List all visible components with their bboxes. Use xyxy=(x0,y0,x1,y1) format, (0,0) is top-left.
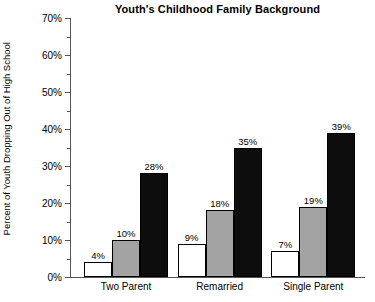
y-axis-tick-label: 20% xyxy=(42,198,62,209)
y-axis-major-tick xyxy=(65,129,71,130)
x-axis-category-label: Two Parent xyxy=(101,281,152,292)
y-axis-minor-tick xyxy=(67,148,71,149)
y-axis-tick-label: 70% xyxy=(42,13,62,24)
chart-title: Youth's Childhood Family Background xyxy=(70,3,365,15)
bar: 4% xyxy=(84,262,112,277)
y-axis-minor-tick xyxy=(67,74,71,75)
bar: 9% xyxy=(178,244,206,277)
y-axis-tick-label: 50% xyxy=(42,87,62,98)
bar: 39% xyxy=(327,133,355,277)
x-axis-line xyxy=(70,277,365,278)
y-axis-title: Percent of Youth Dropping Out of High Sc… xyxy=(0,0,14,277)
y-axis-tick-label: 40% xyxy=(42,124,62,135)
y-axis-tick-label: 60% xyxy=(42,50,62,61)
bar: 18% xyxy=(206,210,234,277)
bar-value-label: 39% xyxy=(332,121,351,132)
y-axis-major-tick xyxy=(65,166,71,167)
y-axis-major-tick xyxy=(65,240,71,241)
bar: 28% xyxy=(140,173,168,277)
y-axis-title-text: Percent of Youth Dropping Out of High Sc… xyxy=(2,42,12,235)
y-axis-tick-label: 10% xyxy=(42,235,62,246)
x-axis-category-label: Remarried xyxy=(196,281,243,292)
bar-value-label: 4% xyxy=(91,250,105,261)
y-axis-minor-tick xyxy=(67,222,71,223)
y-axis-major-tick xyxy=(65,203,71,204)
bar: 35% xyxy=(234,148,262,278)
y-axis-major-tick xyxy=(65,92,71,93)
y-axis-minor-tick xyxy=(67,37,71,38)
bar: 19% xyxy=(299,207,327,277)
y-axis-tick-label: 0% xyxy=(48,272,62,283)
bar-value-label: 18% xyxy=(210,198,229,209)
bar: 7% xyxy=(271,251,299,277)
bar-value-label: 7% xyxy=(278,239,292,250)
y-axis-major-tick xyxy=(65,277,71,278)
bar-group: 7%19%39% xyxy=(271,18,355,277)
y-axis-tick-label: 30% xyxy=(42,161,62,172)
bar-value-label: 19% xyxy=(304,195,323,206)
bar: 10% xyxy=(112,240,140,277)
bar-group: 9%18%35% xyxy=(178,18,262,277)
bar-value-label: 10% xyxy=(116,228,135,239)
bar-group: 4%10%28% xyxy=(84,18,168,277)
bar-value-label: 35% xyxy=(238,136,257,147)
bar-value-label: 9% xyxy=(185,232,199,243)
x-axis-category-label: Single Parent xyxy=(283,281,343,292)
y-axis-major-tick xyxy=(65,18,71,19)
y-axis-minor-tick xyxy=(67,259,71,260)
plot-area: 0%10%20%30%40%50%60%70% 4%10%28%9%18%35%… xyxy=(70,18,365,277)
bar-value-label: 28% xyxy=(144,161,163,172)
y-axis-major-tick xyxy=(65,55,71,56)
bar-chart: Youth's Childhood Family Background Perc… xyxy=(0,0,375,302)
y-axis-minor-tick xyxy=(67,111,71,112)
y-axis-minor-tick xyxy=(67,185,71,186)
